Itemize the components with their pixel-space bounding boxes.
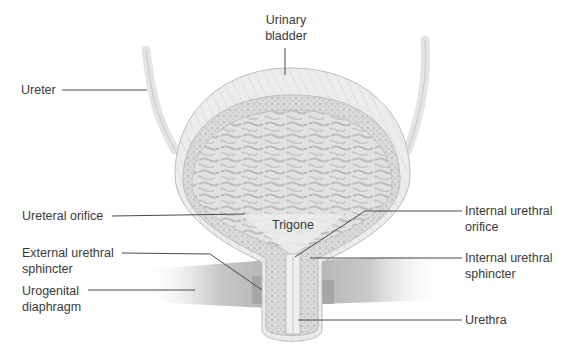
label-line: bladder [258, 28, 314, 44]
label-line: diaphragm [22, 299, 81, 315]
label-line: External urethral [22, 245, 114, 261]
label-urogenital-diaphragm: Urogenital diaphragm [22, 283, 81, 315]
urogenital-diaphragm-left [140, 260, 268, 308]
label-ureteral-orifice: Ureteral orifice [22, 208, 103, 224]
urogenital-diaphragm-right [318, 255, 445, 304]
label-ureter: Ureter [21, 82, 56, 98]
label-internal-urethral-orifice: Internal urethral orifice [465, 203, 553, 235]
label-line: Urethra [465, 312, 507, 328]
label-external-urethral-sphincter: External urethral sphincter [22, 245, 114, 277]
label-line: sphincter [22, 261, 114, 277]
label-line: Ureter [21, 82, 56, 98]
label-line: Trigone [272, 217, 314, 233]
label-line: Urinary [258, 12, 314, 28]
right-ureter [408, 40, 426, 150]
label-line: Internal urethral [465, 203, 553, 219]
label-line: sphincter [465, 266, 553, 282]
label-line: Urogenital [22, 283, 81, 299]
label-urinary-bladder: Urinary bladder [258, 12, 314, 44]
label-urethra: Urethra [465, 312, 507, 328]
label-line: Internal urethral [465, 250, 553, 266]
label-trigone: Trigone [272, 217, 314, 233]
bladder-illustration [0, 0, 578, 352]
label-internal-urethral-sphincter: Internal urethral sphincter [465, 250, 553, 282]
left-ureter [146, 50, 175, 150]
label-line: orifice [465, 219, 553, 235]
label-line: Ureteral orifice [22, 208, 103, 224]
